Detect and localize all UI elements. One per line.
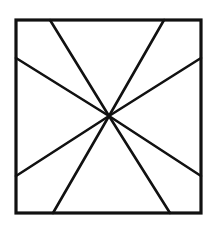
ray-bottom-left [53,116,109,213]
ray-left-upper [16,58,109,116]
ray-top-left [50,20,109,116]
ray-top-right [109,20,164,116]
ray-left-lower [16,116,109,176]
square-rays-diagram [0,0,217,232]
ray-right-lower [109,116,201,176]
rays-group [16,20,201,213]
diagram-figure [0,0,217,232]
ray-bottom-right [109,116,170,213]
ray-right-upper [109,58,201,116]
